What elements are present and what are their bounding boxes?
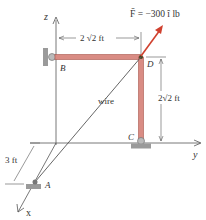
x-axis-label: x <box>26 207 31 218</box>
ball-joint-b <box>49 54 56 61</box>
wire <box>35 57 141 182</box>
pipe-bd <box>55 55 141 60</box>
wire-label: wire <box>98 96 114 106</box>
dim-top-label: 2 √2 ft <box>80 33 104 43</box>
point-a-label: A <box>44 180 51 190</box>
anchor-a <box>33 180 38 185</box>
force-label: F̄ = −300 î lb <box>130 8 180 19</box>
ball-joint-c <box>138 138 145 145</box>
force-vector <box>141 30 160 56</box>
force-arrow-icon <box>155 25 163 34</box>
ground-support-c <box>131 144 151 149</box>
point-b-label: B <box>60 63 66 73</box>
statics-diagram: z y x 3 ft B D C wire A 2 √2 ft 2√2 ft F… <box>0 0 206 220</box>
pipe-dc <box>139 57 144 140</box>
x-axis <box>18 143 56 212</box>
z-axis-label: z <box>43 11 48 22</box>
point-c-label: C <box>128 132 135 142</box>
ground-support-a <box>26 184 41 189</box>
wall-support-b <box>43 48 48 66</box>
point-d-label: D <box>146 59 154 69</box>
dim-3ft-label: 3 ft <box>5 155 18 165</box>
y-axis-label: y <box>192 149 198 160</box>
dim-right-label: 2√2 ft <box>158 93 180 103</box>
